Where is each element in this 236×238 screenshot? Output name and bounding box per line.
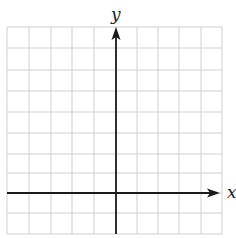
grid-lines	[7, 27, 222, 234]
x-axis-label: x	[227, 182, 236, 202]
y-axis-label: y	[110, 4, 121, 24]
axes	[7, 27, 220, 234]
coordinate-plane: y x	[0, 0, 236, 238]
